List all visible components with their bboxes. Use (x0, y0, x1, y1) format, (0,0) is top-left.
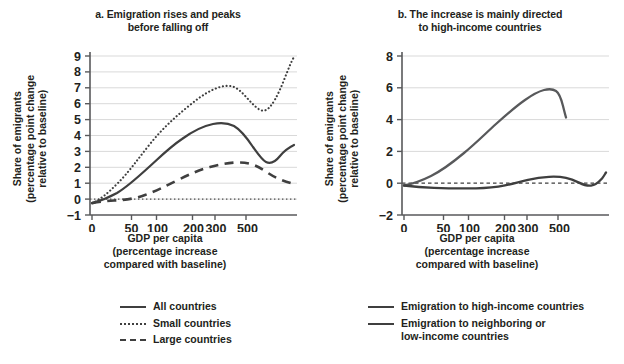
series-high-income (404, 89, 566, 185)
legend-swatch-solid-high-income-icon (368, 300, 394, 313)
panel-b-x-tick-labels: 0 50 100 200 300 500 (401, 222, 570, 232)
panel-a-x-axis-label: GDP per capita (percentage increase comp… (40, 232, 290, 271)
panel-b-ytick-4: 4 (386, 113, 393, 127)
panel-a-ytick-9: 9 (74, 50, 81, 64)
panel-b-xtick-500: 500 (549, 222, 570, 232)
legend-item-high-income: Emigration to high-income countries (368, 300, 584, 313)
panel-a-xlabel-line2: (percentage increase (112, 245, 217, 257)
panel-b-ytick-2: 2 (386, 145, 393, 159)
legend-item-all-countries: All countries (120, 300, 232, 313)
legend-label-small-countries: Small countries (153, 317, 231, 330)
panel-a-xlabel-line1: GDP per capita (127, 232, 202, 244)
legend-label-low-income-line2: low-income countries (401, 330, 546, 343)
panel-a-ytick-7: 7 (74, 81, 81, 95)
panel-b-x-axis-label: GDP per capita (percentage increase comp… (352, 232, 602, 271)
panel-a-xtick-200: 200 (183, 222, 204, 232)
panel-b-gridlines (402, 56, 609, 151)
legend-label-low-income-line1: Emigration to neighboring or (401, 317, 546, 329)
panel-b: b. The increase is mainly directed to hi… (312, 0, 624, 300)
panel-a-ytick-6: 6 (74, 97, 81, 111)
series-small-countries (92, 57, 294, 203)
panel-a-xtick-0: 0 (89, 222, 96, 232)
panel-b-y-tick-labels: 8 6 4 2 0 −2 (379, 50, 393, 223)
figure-root: a. Emigration rises and peaks before fal… (0, 0, 624, 364)
legend-swatch-dotted-icon (120, 317, 146, 330)
panel-a-gridlines (90, 56, 297, 199)
panel-b-xtick-200: 200 (495, 222, 516, 232)
panel-a-xlabel-line3: compared with baseline) (104, 258, 227, 270)
panel-b-xlabel-line1: GDP per capita (439, 232, 514, 244)
panel-b-xtick-0: 0 (401, 222, 408, 232)
legend-label-high-income: Emigration to high-income countries (401, 300, 584, 313)
panel-b-plot: 8 6 4 2 0 −2 0 50 100 200 300 (312, 0, 624, 232)
panel-b-ytick-neg2: −2 (379, 209, 393, 223)
panel-a-ytick-1: 1 (74, 177, 81, 191)
panel-a-xtick-500: 500 (237, 222, 258, 232)
legend-swatch-dashed-icon (120, 333, 146, 346)
panel-a-plot: 9 8 7 6 5 4 3 2 1 0 −1 (0, 0, 312, 232)
legend-swatch-solid-low-income-icon (368, 317, 394, 330)
panel-b-xtick-300: 300 (518, 222, 539, 232)
panel-a-y-tick-labels: 9 8 7 6 5 4 3 2 1 0 −1 (67, 50, 81, 223)
panel-b-xlabel-line3: compared with baseline) (416, 258, 539, 270)
panel-b-ytick-6: 6 (386, 81, 393, 95)
panel-a-xtick-300: 300 (206, 222, 227, 232)
panel-a-ytick-0: 0 (74, 193, 81, 207)
legend-label-all-countries: All countries (153, 300, 217, 313)
panel-a-x-tick-labels: 0 50 100 200 300 500 (89, 222, 258, 232)
legend-item-small-countries: Small countries (120, 317, 232, 330)
panel-b-ytick-8: 8 (386, 50, 393, 64)
panel-b-xtick-50: 50 (437, 222, 451, 232)
legend-label-low-income: Emigration to neighboring or low-income … (401, 317, 546, 343)
panel-a-xtick-50: 50 (125, 222, 139, 232)
legend-item-low-income: Emigration to neighboring or low-income … (368, 317, 584, 343)
panel-a-legend: All countries Small countries Large coun… (120, 300, 232, 350)
panel-b-xtick-100: 100 (459, 222, 480, 232)
legend-swatch-solid-icon (120, 300, 146, 313)
panel-a-ytick-4: 4 (74, 129, 81, 143)
panel-a-ytick-2: 2 (74, 161, 81, 175)
panel-a-ytick-3: 3 (74, 145, 81, 159)
panel-a: a. Emigration rises and peaks before fal… (0, 0, 312, 300)
panel-b-ytick-0: 0 (386, 177, 393, 191)
panel-b-legend: Emigration to high-income countries Emig… (368, 300, 584, 346)
panel-a-ytick-8: 8 (74, 65, 81, 79)
panel-a-ytick-neg1: −1 (67, 209, 81, 223)
panel-a-ytick-5: 5 (74, 113, 81, 127)
legend-label-large-countries: Large countries (153, 333, 232, 346)
legend-item-large-countries: Large countries (120, 333, 232, 346)
panel-b-xlabel-line2: (percentage increase (424, 245, 529, 257)
panel-a-xtick-100: 100 (147, 222, 168, 232)
